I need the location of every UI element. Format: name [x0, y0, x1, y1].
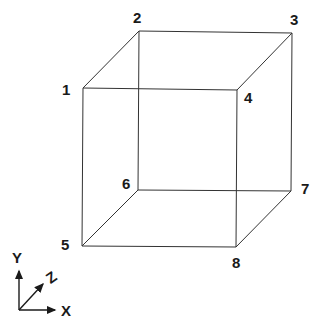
edge-3-4 — [237, 33, 292, 90]
y-axis-label: Y — [12, 249, 22, 266]
vertex-label-1: 1 — [62, 81, 70, 98]
cube-diagram: 1 2 3 4 5 6 7 8 Y X Z — [0, 0, 323, 327]
axis-indicator: Y X Z — [12, 249, 71, 319]
vertex-label-3: 3 — [290, 11, 298, 28]
edge-2-3 — [139, 31, 292, 33]
edge-7-8 — [236, 191, 291, 247]
z-axis-arrow-icon — [19, 284, 43, 310]
edge-6-7 — [138, 190, 291, 191]
vertex-label-4: 4 — [244, 89, 253, 106]
z-axis-label: Z — [42, 268, 59, 287]
vertex-label-2: 2 — [133, 9, 141, 26]
edge-5-6 — [82, 190, 138, 246]
vertex-label-5: 5 — [61, 236, 69, 253]
x-axis-label: X — [61, 302, 71, 319]
vertex-label-8: 8 — [232, 254, 240, 271]
cube-edges — [82, 31, 292, 247]
edge-1-2 — [83, 31, 139, 88]
edge-3-7 — [291, 33, 292, 191]
vertex-label-7: 7 — [301, 180, 309, 197]
edge-4-8 — [236, 90, 237, 247]
edge-8-5 — [82, 246, 236, 247]
vertex-label-6: 6 — [122, 175, 130, 192]
edge-2-6 — [138, 31, 139, 190]
edge-4-1 — [83, 88, 237, 90]
edge-1-5 — [82, 88, 83, 246]
vertex-labels: 1 2 3 4 5 6 7 8 — [61, 9, 309, 271]
